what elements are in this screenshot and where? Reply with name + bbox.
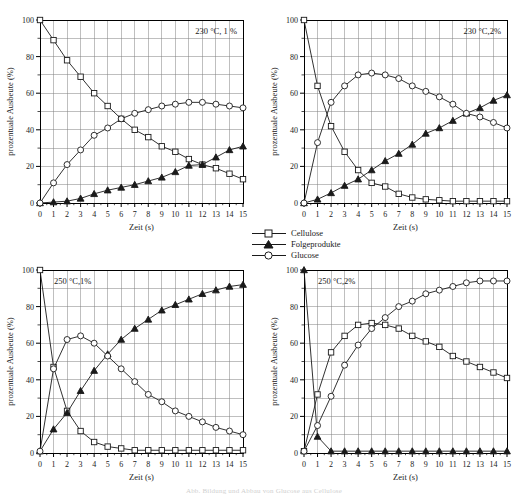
svg-text:0: 0 [302, 210, 306, 219]
svg-text:11: 11 [185, 460, 193, 469]
svg-text:0: 0 [38, 210, 42, 219]
svg-text:15: 15 [239, 460, 247, 469]
svg-text:80: 80 [290, 53, 298, 62]
chart-legend: Cellulose Folgeprodukte Glucose [252, 228, 341, 261]
svg-text:40: 40 [290, 126, 298, 135]
chart-panel-bottom-left: 0204060801000123456789101112131415Zeit (… [0, 250, 264, 500]
svg-text:15: 15 [503, 210, 511, 219]
svg-text:15: 15 [239, 210, 247, 219]
svg-text:1: 1 [52, 210, 56, 219]
chart-panel-bottom-right: 0204060801000123456789101112131415Zeit (… [264, 250, 528, 500]
svg-text:40: 40 [26, 376, 34, 385]
svg-text:9: 9 [160, 460, 164, 469]
svg-text:20: 20 [290, 412, 298, 421]
legend-label-glucose: Glucose [286, 250, 319, 261]
chart-panel-top-right: 0204060801000123456789101112131415Zeit (… [264, 0, 528, 250]
svg-text:14: 14 [225, 210, 233, 219]
svg-text:2: 2 [65, 210, 69, 219]
svg-text:7: 7 [397, 210, 401, 219]
svg-text:11: 11 [185, 210, 193, 219]
legend-item-glucose: Glucose [252, 250, 341, 261]
svg-text:9: 9 [160, 210, 164, 219]
svg-text:12: 12 [462, 210, 470, 219]
svg-text:2: 2 [329, 460, 333, 469]
svg-text:0: 0 [294, 449, 298, 458]
legend-label-cellulose: Cellulose [286, 228, 323, 239]
svg-text:5: 5 [106, 460, 110, 469]
svg-text:60: 60 [26, 89, 34, 98]
svg-text:Zeit (s): Zeit (s) [393, 222, 418, 232]
svg-text:13: 13 [212, 210, 220, 219]
svg-text:14: 14 [489, 460, 497, 469]
svg-text:4: 4 [92, 460, 96, 469]
legend-item-folgeprodukte: Folgeprodukte [252, 239, 341, 250]
svg-text:11: 11 [449, 460, 457, 469]
svg-text:100: 100 [22, 266, 34, 275]
svg-text:4: 4 [356, 460, 360, 469]
svg-text:3: 3 [343, 460, 347, 469]
svg-text:15: 15 [503, 460, 511, 469]
circle-marker-icon [252, 250, 286, 261]
svg-text:14: 14 [225, 460, 233, 469]
svg-text:8: 8 [146, 460, 150, 469]
triangle-marker-icon [252, 239, 286, 250]
svg-text:6: 6 [383, 210, 387, 219]
legend-item-cellulose: Cellulose [252, 228, 341, 239]
svg-text:12: 12 [198, 460, 206, 469]
svg-text:2: 2 [65, 460, 69, 469]
svg-text:Zeit (s): Zeit (s) [129, 472, 154, 482]
svg-text:100: 100 [286, 266, 298, 275]
svg-text:80: 80 [290, 303, 298, 312]
svg-text:60: 60 [290, 339, 298, 348]
legend-label-folgeprodukte: Folgeprodukte [286, 239, 341, 250]
svg-text:8: 8 [410, 460, 414, 469]
svg-text:60: 60 [290, 89, 298, 98]
svg-text:6: 6 [119, 210, 123, 219]
svg-text:250 °C,1%: 250 °C,1% [54, 276, 91, 286]
svg-text:Zeit (s): Zeit (s) [129, 222, 154, 232]
svg-text:0: 0 [30, 199, 34, 208]
svg-text:9: 9 [424, 460, 428, 469]
svg-text:20: 20 [26, 162, 34, 171]
svg-text:7: 7 [133, 460, 137, 469]
svg-text:3: 3 [79, 460, 83, 469]
svg-text:Zeit (s): Zeit (s) [393, 472, 418, 482]
figure-root: 0204060801000123456789101112131415Zeit (… [0, 0, 528, 500]
svg-text:9: 9 [424, 210, 428, 219]
svg-text:4: 4 [356, 210, 360, 219]
svg-text:12: 12 [198, 210, 206, 219]
svg-text:5: 5 [370, 210, 374, 219]
svg-text:7: 7 [133, 210, 137, 219]
svg-text:7: 7 [397, 460, 401, 469]
svg-text:0: 0 [30, 449, 34, 458]
svg-text:13: 13 [212, 460, 220, 469]
svg-text:2: 2 [329, 210, 333, 219]
svg-text:250 °C,2%: 250 °C,2% [318, 276, 355, 286]
svg-text:10: 10 [171, 460, 179, 469]
svg-text:100: 100 [22, 16, 34, 25]
svg-text:10: 10 [171, 210, 179, 219]
svg-text:0: 0 [38, 460, 42, 469]
svg-text:40: 40 [26, 126, 34, 135]
svg-text:3: 3 [79, 210, 83, 219]
svg-text:14: 14 [489, 210, 497, 219]
svg-text:6: 6 [119, 460, 123, 469]
svg-text:prozentuale Ausbeute (%): prozentuale Ausbeute (%) [269, 67, 279, 155]
svg-text:80: 80 [26, 303, 34, 312]
svg-text:6: 6 [383, 460, 387, 469]
chart-panel-top-left: 0204060801000123456789101112131415Zeit (… [0, 0, 264, 250]
svg-text:60: 60 [26, 339, 34, 348]
svg-text:prozentuale Ausbeute (%): prozentuale Ausbeute (%) [269, 317, 279, 405]
svg-text:80: 80 [26, 53, 34, 62]
svg-text:5: 5 [106, 210, 110, 219]
svg-text:230 °C,2%: 230 °C,2% [464, 26, 501, 36]
svg-text:8: 8 [146, 210, 150, 219]
svg-text:1: 1 [316, 210, 320, 219]
svg-text:100: 100 [286, 16, 298, 25]
svg-text:12: 12 [462, 460, 470, 469]
svg-text:1: 1 [316, 460, 320, 469]
svg-text:40: 40 [290, 376, 298, 385]
svg-text:13: 13 [476, 460, 484, 469]
svg-text:20: 20 [26, 412, 34, 421]
svg-text:4: 4 [92, 210, 96, 219]
